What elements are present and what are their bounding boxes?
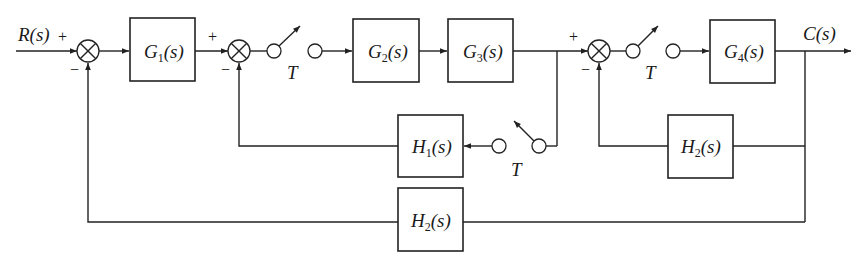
block-g2: G2(s) <box>353 19 419 82</box>
summing-junction-3: − <box>581 40 610 78</box>
block-h1-label: H1(s) <box>411 136 452 160</box>
s3-plus-sign: + <box>569 28 578 45</box>
block-h2-outer: H2(s) <box>398 188 463 251</box>
block-g2-label: G2(s) <box>368 41 408 65</box>
block-g4: G4(s) <box>710 20 775 83</box>
s1-minus-sign: − <box>70 61 79 78</box>
block-h2-inner-label: H2(s) <box>680 136 721 160</box>
s1-plus-sign: + <box>58 28 67 45</box>
block-h2-inner: H2(s) <box>668 115 733 178</box>
summing-junction-2: − <box>221 40 250 78</box>
output-signal: C(s) <box>775 23 851 51</box>
sampler-switch-1: T <box>267 26 322 83</box>
sampler-1-label: T <box>287 62 299 83</box>
summing-junction-1: − <box>70 40 99 78</box>
block-g4-label: G4(s) <box>724 41 764 65</box>
sampler-switch-2: T <box>626 26 680 83</box>
block-h1: H1(s) <box>398 115 463 177</box>
block-g1: G1(s) <box>130 18 195 81</box>
output-label: C(s) <box>803 23 836 45</box>
sampler-2-label: T <box>645 62 657 83</box>
sampler-3-label: T <box>511 159 523 180</box>
block-h2-outer-label: H2(s) <box>410 210 451 234</box>
sampler-switch-3: T <box>492 121 546 180</box>
s2-minus-sign: − <box>221 61 230 78</box>
block-diagram: R(s) + − G1(s) + − T G2(s) <box>0 0 858 263</box>
block-g3: G3(s) <box>448 19 513 82</box>
block-g3-label: G3(s) <box>463 41 503 65</box>
input-signal: R(s) + <box>16 24 77 51</box>
block-g1-label: G1(s) <box>144 41 184 65</box>
input-label: R(s) <box>17 24 50 46</box>
s2-plus-sign: + <box>208 28 217 45</box>
s3-minus-sign: − <box>581 61 590 78</box>
